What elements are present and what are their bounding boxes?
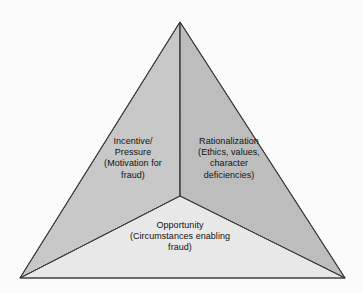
segment-label-opportunity: Opportunity (Circumstances enabling frau… (104, 220, 256, 254)
segment-label-incentive-pressure: Incentive/ Pressure (Motivation for frau… (88, 136, 178, 181)
segment-label-rationalization: Rationalization (Ethics, values, charact… (183, 136, 275, 181)
fraud-triangle-diagram: Incentive/ Pressure (Motivation for frau… (0, 0, 363, 293)
